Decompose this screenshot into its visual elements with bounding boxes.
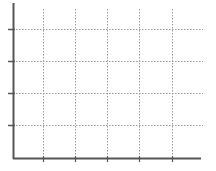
- grid-lines: [13, 9, 203, 158]
- axis-ticks: [8, 30, 173, 163]
- empty-chart: [0, 0, 216, 171]
